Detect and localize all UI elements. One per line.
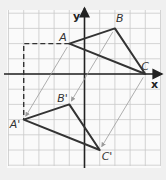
vertex-label: B xyxy=(116,12,124,25)
vertex-label: C xyxy=(141,60,149,73)
y-axis-label: y xyxy=(73,10,80,23)
x-axis-label: x xyxy=(151,78,158,91)
vertex-label: B' xyxy=(57,92,68,105)
translation-diagram: xy ABCA'B'C' xyxy=(0,0,166,180)
vertex-label: C' xyxy=(102,150,113,163)
vertex-label: A xyxy=(58,31,67,44)
vertex-label: A' xyxy=(9,118,21,131)
